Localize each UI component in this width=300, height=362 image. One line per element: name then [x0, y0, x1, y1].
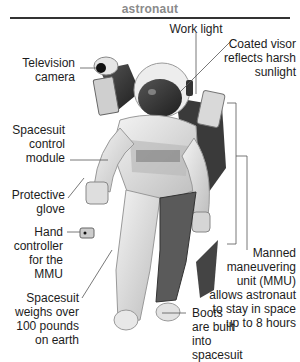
label-work-light: Work light	[150, 22, 242, 36]
label-glove: Protective glove	[4, 188, 65, 216]
label-hand-controller: Hand controller for the MMU	[4, 225, 63, 281]
left-boot	[114, 310, 138, 330]
glove	[86, 182, 108, 204]
label-tv-camera: Television camera	[4, 56, 75, 84]
label-weight: Spacesuit weighs over 100 pounds on eart…	[4, 291, 79, 347]
right-boot	[156, 303, 180, 321]
label-mmu: Manned maneuvering unit (MMU) allows ast…	[186, 246, 296, 330]
hand-controller	[80, 228, 94, 238]
tv-camera	[94, 57, 118, 75]
label-control-module: Spacesuit control module	[4, 123, 65, 165]
left-leg	[116, 190, 160, 322]
label-visor: Coated visor reflects harsh sunlight	[206, 37, 296, 79]
